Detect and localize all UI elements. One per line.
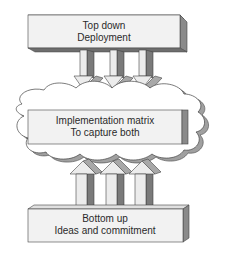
down-arrow-shaft-front xyxy=(80,50,87,76)
down-arrow-shaft-side xyxy=(117,50,124,78)
bottom-box-line2: Ideas and commitment xyxy=(54,225,155,236)
up-arrow-shaft-side xyxy=(117,172,124,207)
up-arrow-shaft-front xyxy=(135,174,146,207)
bottom-box-line1: Bottom up xyxy=(82,213,128,224)
bottom-box-top-face xyxy=(28,205,189,209)
up-arrows xyxy=(70,159,161,207)
middle-box: Implementation matrix To capture both xyxy=(28,110,188,144)
down-arrow-shaft-front xyxy=(110,50,117,76)
top-box-bottom-face xyxy=(28,48,187,52)
up-arrow-shaft-side xyxy=(87,172,94,207)
top-box-line2: Deployment xyxy=(77,32,131,43)
up-arrow-shaft-front xyxy=(106,174,117,207)
middle-box-line1: Implementation matrix xyxy=(56,115,154,126)
up-arrow-shaft-front xyxy=(76,174,87,207)
bottom-box-side-face xyxy=(183,205,189,242)
middle-box-line2: To capture both xyxy=(71,127,140,138)
top-box-line1: Top down xyxy=(83,20,126,31)
down-arrow-shaft-side xyxy=(87,50,94,78)
up-arrow xyxy=(129,159,161,207)
down-arrow-shaft-side xyxy=(146,50,153,78)
bottom-box: Bottom up Ideas and commitment xyxy=(28,205,189,242)
up-arrow xyxy=(100,159,132,207)
down-arrow-shaft-front xyxy=(139,50,146,76)
middle-box-side-face xyxy=(182,110,188,144)
top-box-side-face xyxy=(180,15,187,52)
up-arrow xyxy=(70,159,102,207)
diagram-canvas: Top down Deployment Implementation matri… xyxy=(0,0,225,254)
up-arrow-shaft-side xyxy=(146,172,153,207)
top-box: Top down Deployment xyxy=(28,15,187,52)
